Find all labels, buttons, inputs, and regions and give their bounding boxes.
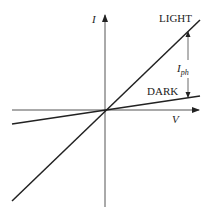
x-axis-label: V: [172, 114, 179, 125]
iv-diagram: [0, 0, 214, 219]
dark-label: DARK: [147, 86, 178, 97]
iph-subscript: ph: [181, 68, 189, 77]
y-axis-label: I: [92, 14, 96, 25]
light-label: LIGHT: [159, 13, 192, 24]
iph-label: Iph: [177, 63, 189, 77]
